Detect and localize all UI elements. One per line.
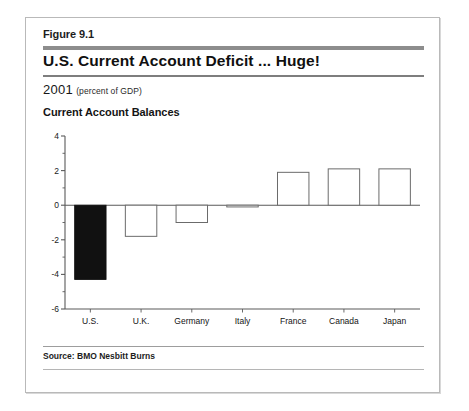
x-tick-label: France — [280, 316, 307, 326]
x-tick-label: Italy — [235, 316, 251, 326]
header-rule-thick — [43, 46, 424, 50]
header-rule-thin — [43, 75, 424, 77]
figure-card: Figure 9.1 U.S. Current Account Deficit … — [25, 17, 440, 393]
bar-chart: 420-2-4-6U.S.U.K.GermanyItalyFranceCanad… — [43, 130, 424, 335]
bar-italy — [227, 205, 258, 207]
y-tick-label: 4 — [54, 131, 59, 141]
source-note: Source: BMO Nesbitt Burns — [43, 351, 155, 361]
y-tick-label: -6 — [51, 304, 59, 314]
chart-svg: 420-2-4-6U.S.U.K.GermanyItalyFranceCanad… — [43, 130, 424, 335]
page-title: U.S. Current Account Deficit ... Huge! — [43, 52, 428, 70]
bar-germany — [176, 205, 207, 222]
x-tick-label: U.K. — [133, 316, 150, 326]
bar-uk — [125, 205, 156, 236]
bar-france — [277, 172, 308, 205]
subtitle-units: (percent of GDP) — [76, 86, 142, 96]
x-tick-label: U.S. — [82, 316, 99, 326]
y-tick-label: 2 — [54, 166, 59, 176]
x-tick-label: Germany — [174, 316, 210, 326]
x-tick-label: Japan — [383, 316, 406, 326]
footer-divider — [43, 369, 424, 370]
y-tick-label: 0 — [54, 200, 59, 210]
y-tick-label: -2 — [51, 235, 59, 245]
figure-label: Figure 9.1 — [43, 28, 94, 40]
bar-canada — [328, 169, 359, 205]
bar-us — [75, 205, 106, 279]
bar-japan — [379, 169, 410, 205]
x-tick-label: Canada — [329, 316, 359, 326]
source-divider — [43, 346, 424, 347]
subtitle-year: 2001 — [43, 82, 73, 97]
subtitle: 2001(percent of GDP) — [43, 80, 142, 98]
y-tick-label: -4 — [51, 269, 59, 279]
chart-heading: Current Account Balances — [43, 106, 180, 118]
